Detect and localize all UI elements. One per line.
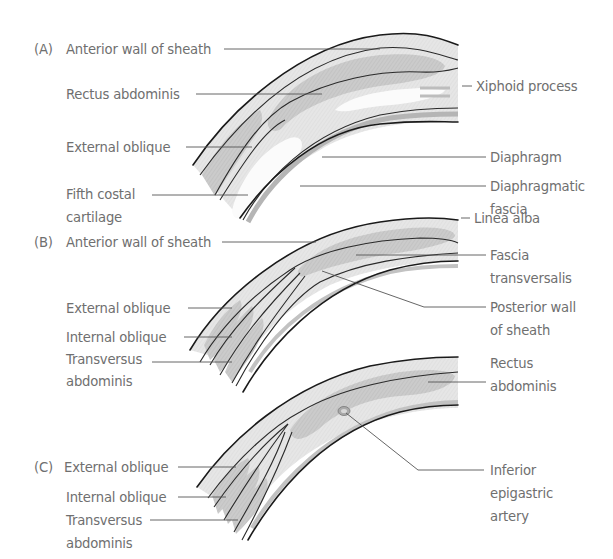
label-inferior-epigastric-artery-line3: artery (490, 509, 529, 524)
panel-c-marker: (C) (34, 460, 53, 475)
label-c-external-oblique: External oblique (64, 460, 168, 475)
label-fifth-costal-cartilage-line2: cartilage (66, 210, 122, 225)
label-diaphragmatic-fascia-line1: Diaphragmatic (490, 179, 585, 194)
label-fascia-transversalis-line2: transversalis (490, 271, 572, 286)
label-fascia-transversalis-line1: Fascia (490, 248, 529, 263)
label-c-transversus-abdominis-line1: Transversus (65, 513, 142, 528)
label-xiphoid-process: Xiphoid process (476, 79, 578, 94)
label-b-transversus-abdominis-line2: abdominis (66, 374, 133, 389)
label-c-rectus-abdominis-line2: abdominis (490, 379, 557, 394)
rectus-sheath-diagram: (A) Anterior wall of sheath Rectus abdom… (0, 0, 613, 559)
panel-a-cross-section (193, 33, 458, 222)
label-b-transversus-abdominis-line1: Transversus (65, 352, 142, 367)
label-b-anterior-wall-of-sheath: Anterior wall of sheath (66, 235, 211, 250)
panel-b-marker: (B) (34, 235, 53, 250)
panel-a-marker: (A) (34, 42, 53, 57)
label-c-internal-oblique: Internal oblique (66, 490, 167, 505)
panel-a: (A) Anterior wall of sheath Rectus abdom… (34, 33, 585, 225)
label-inferior-epigastric-artery-line1: Inferior (490, 463, 537, 478)
label-external-oblique: External oblique (66, 140, 170, 155)
label-posterior-wall-of-sheath-line1: Posterior wall (490, 300, 576, 315)
label-b-internal-oblique: Internal oblique (66, 330, 167, 345)
label-c-rectus-abdominis-line1: Rectus (490, 356, 533, 371)
label-c-transversus-abdominis-line2: abdominis (66, 536, 133, 551)
panel-c-cross-section (197, 357, 458, 540)
label-linea-alba: Linea alba (474, 211, 540, 226)
label-rectus-abdominis: Rectus abdominis (66, 87, 180, 102)
label-fifth-costal-cartilage-line1: Fifth costal (66, 187, 135, 202)
label-posterior-wall-of-sheath-line2: of sheath (490, 323, 550, 338)
label-diaphragm: Diaphragm (490, 150, 562, 165)
label-b-external-oblique: External oblique (66, 301, 170, 316)
label-anterior-wall-of-sheath: Anterior wall of sheath (66, 42, 211, 57)
label-inferior-epigastric-artery-line2: epigastric (490, 486, 553, 501)
inferior-epigastric-artery-lumen (341, 409, 347, 413)
